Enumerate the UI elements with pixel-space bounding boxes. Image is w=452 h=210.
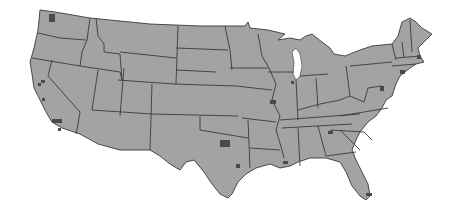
urban-marker-miami [366, 193, 372, 196]
urban-marker-chicago [291, 81, 294, 84]
urban-marker-los-angeles [52, 119, 62, 123]
urban-marker-sacramento [41, 80, 45, 83]
urban-marker-san-diego [58, 128, 61, 131]
urban-marker-dallas [220, 140, 230, 147]
urban-marker-seattle [49, 14, 55, 22]
urban-marker-boston [417, 55, 421, 59]
urban-marker-atlanta [328, 131, 333, 134]
urban-marker-houston [236, 164, 240, 168]
urban-marker-st-louis [270, 100, 276, 104]
urban-marker-new-orleans [283, 161, 288, 164]
urban-marker-fresno [42, 98, 45, 101]
us-landmass [30, 10, 432, 200]
urban-marker-new-york [400, 70, 405, 74]
us-map [0, 0, 452, 210]
urban-marker-sf-bay [38, 83, 41, 86]
urban-marker-dc-baltimore [380, 86, 384, 91]
